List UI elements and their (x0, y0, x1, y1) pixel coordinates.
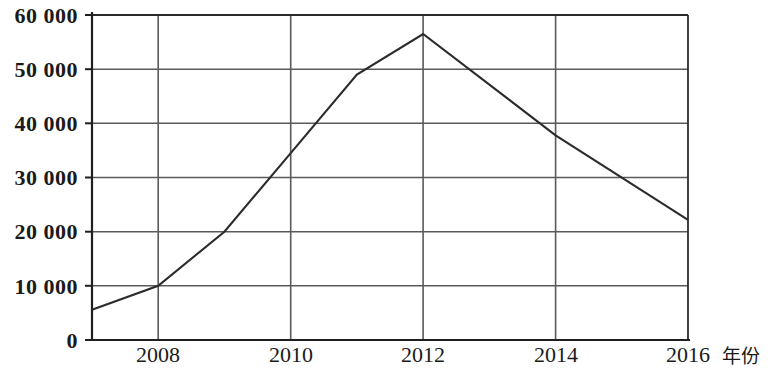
ytick-label-30000: 30 000 (0, 167, 78, 189)
x-axis-unit-label: 年份 (722, 347, 760, 366)
ytick-label-0: 0 (0, 330, 78, 352)
ytick-label-40000: 40 000 (0, 113, 78, 135)
xtick-label-2014: 2014 (506, 344, 606, 366)
chart-plot-area (0, 0, 773, 371)
xtick-label-2012: 2012 (373, 344, 473, 366)
xtick-label-2008: 2008 (108, 344, 208, 366)
ytick-label-50000: 50 000 (0, 59, 78, 81)
ytick-label-20000: 20 000 (0, 221, 78, 243)
line-chart: 60 000 50 000 40 000 30 000 20 000 10 00… (0, 0, 773, 371)
ytick-label-60000: 60 000 (0, 5, 78, 27)
ytick-label-10000: 10 000 (0, 276, 78, 298)
xtick-label-2010: 2010 (241, 344, 341, 366)
